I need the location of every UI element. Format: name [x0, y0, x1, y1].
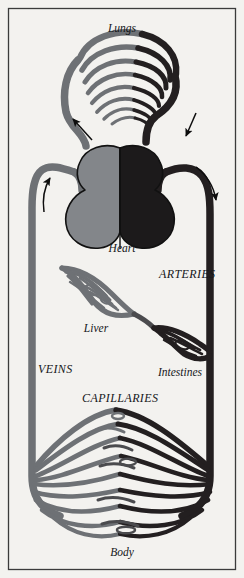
heart: [66, 146, 175, 249]
circulatory-system-figure: Lungs Heart ARTERIES Liver VEINS Intesti…: [0, 0, 244, 578]
label-heart: Heart: [108, 242, 137, 254]
label-arteries: ARTERIES: [158, 267, 216, 281]
label-body: Body: [110, 546, 135, 559]
label-intestines: Intestines: [157, 366, 203, 378]
label-veins: VEINS: [38, 362, 73, 376]
label-liver: Liver: [83, 322, 109, 334]
label-capillaries: CAPILLARIES: [82, 391, 158, 405]
label-lungs: Lungs: [107, 22, 137, 35]
